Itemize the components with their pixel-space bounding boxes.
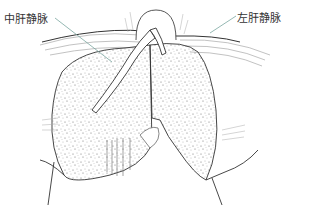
body-wall-left	[48, 162, 54, 205]
leader-middle-hepatic-vein	[55, 18, 112, 62]
left-lobe	[150, 44, 217, 180]
liver-drawing	[0, 0, 315, 218]
label-middle-hepatic-vein: 中肝静脉	[4, 10, 48, 26]
body-wall-right	[212, 178, 222, 205]
liver-illustration: 中肝静脉 左肝静脉	[0, 0, 315, 218]
leader-left-hepatic-vein	[210, 16, 236, 33]
right-lobe	[52, 45, 152, 180]
label-left-hepatic-vein: 左肝静脉	[237, 9, 281, 25]
